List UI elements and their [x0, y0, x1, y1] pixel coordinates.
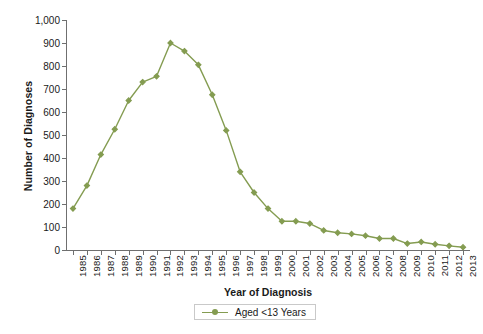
x-axis-tick-label: 2008 [397, 255, 408, 277]
y-axis-tick-label: 100 [16, 222, 60, 233]
data-point-marker [460, 245, 465, 250]
y-axis-tick-label: 500 [16, 130, 60, 141]
data-point-marker [321, 228, 326, 233]
x-axis-tick-label: 1998 [258, 255, 269, 277]
y-axis-tick-label: 1,000 [16, 15, 60, 26]
y-axis-tick [62, 158, 66, 159]
x-axis-tick-labels: 1985198619871988198919901991199219931994… [66, 255, 470, 285]
data-point-marker [98, 152, 103, 157]
data-point-marker [405, 241, 410, 246]
x-axis-tick-label: 1995 [216, 255, 227, 277]
y-axis-tick-label: 400 [16, 153, 60, 164]
y-axis-tick [62, 20, 66, 21]
series-line [73, 43, 463, 247]
y-axis-tick [62, 250, 66, 251]
legend-label-aged-under-13: Aged <13 Years [235, 307, 306, 318]
data-point-marker [363, 233, 368, 238]
x-axis-tick-label: 1986 [91, 255, 102, 277]
x-axis-tick-label: 2003 [328, 255, 339, 277]
y-axis-tick-label: 600 [16, 107, 60, 118]
data-point-marker [349, 231, 354, 236]
series-aged-under-13 [66, 20, 470, 251]
y-axis-tick-label: 800 [16, 61, 60, 72]
y-axis-tick-label: 700 [16, 84, 60, 95]
x-axis-tick-label: 1990 [147, 255, 158, 277]
data-point-marker [419, 239, 424, 244]
y-axis-tick-label: 900 [16, 38, 60, 49]
y-axis-tick [62, 66, 66, 67]
data-point-marker [391, 236, 396, 241]
data-point-marker [224, 128, 229, 133]
x-axis-tick-label: 1985 [77, 255, 88, 277]
y-axis-tick [62, 43, 66, 44]
x-axis-tick-label: 2001 [300, 255, 311, 277]
line-chart: Number of Diagnoses 01002003004005006007… [0, 0, 483, 334]
x-axis-title: Year of Diagnosis [66, 286, 470, 298]
x-axis-tick-label: 2006 [370, 255, 381, 277]
x-axis-tick-label: 2007 [383, 255, 394, 277]
y-axis-tick-label: 0 [16, 245, 60, 256]
x-axis-tick-label: 1989 [133, 255, 144, 277]
x-axis-tick-label: 2013 [467, 255, 478, 277]
x-axis-tick-label: 1997 [244, 255, 255, 277]
x-axis-tick-label: 2000 [286, 255, 297, 277]
series-markers [70, 40, 465, 249]
x-axis-tick-label: 2011 [439, 255, 450, 276]
y-axis-tick [62, 204, 66, 205]
data-point-marker [377, 236, 382, 241]
x-axis-tick-label: 2005 [356, 255, 367, 277]
y-axis-tick [62, 227, 66, 228]
x-axis-tick-label: 1994 [202, 255, 213, 277]
data-point-marker [447, 243, 452, 248]
data-point-marker [210, 92, 215, 97]
x-axis-tick-label: 1991 [161, 255, 172, 277]
data-point-marker [335, 230, 340, 235]
y-axis-tick [62, 112, 66, 113]
x-axis-tick-label: 2010 [425, 255, 436, 277]
plot-area [66, 20, 470, 250]
y-axis-tick-label: 200 [16, 199, 60, 210]
y-axis-tick [62, 89, 66, 90]
x-axis-tick-label: 1996 [230, 255, 241, 277]
data-point-marker [154, 74, 159, 79]
x-axis-tick-label: 1987 [105, 255, 116, 277]
x-axis-tick-label: 1999 [272, 255, 283, 277]
x-axis-tick-label: 1993 [188, 255, 199, 277]
y-axis-tick-label: 300 [16, 176, 60, 187]
x-axis-tick-label: 2012 [453, 255, 464, 277]
x-axis-tick-label: 2009 [411, 255, 422, 277]
x-axis-tick-label: 1988 [119, 255, 130, 277]
x-axis-tick-label: 2004 [342, 255, 353, 277]
y-axis-tick-labels: 01002003004005006007008009001,000 [16, 0, 60, 334]
legend-marker-icon [202, 308, 228, 317]
data-point-marker [112, 127, 117, 132]
data-point-marker [433, 242, 438, 247]
x-axis-tick-label: 2002 [314, 255, 325, 277]
chart-legend: Aged <13 Years [194, 304, 316, 320]
y-axis-tick [62, 135, 66, 136]
x-axis-tick-label: 1992 [174, 255, 185, 277]
data-point-marker [293, 219, 298, 224]
data-point-marker [307, 221, 312, 226]
y-axis-tick [62, 181, 66, 182]
